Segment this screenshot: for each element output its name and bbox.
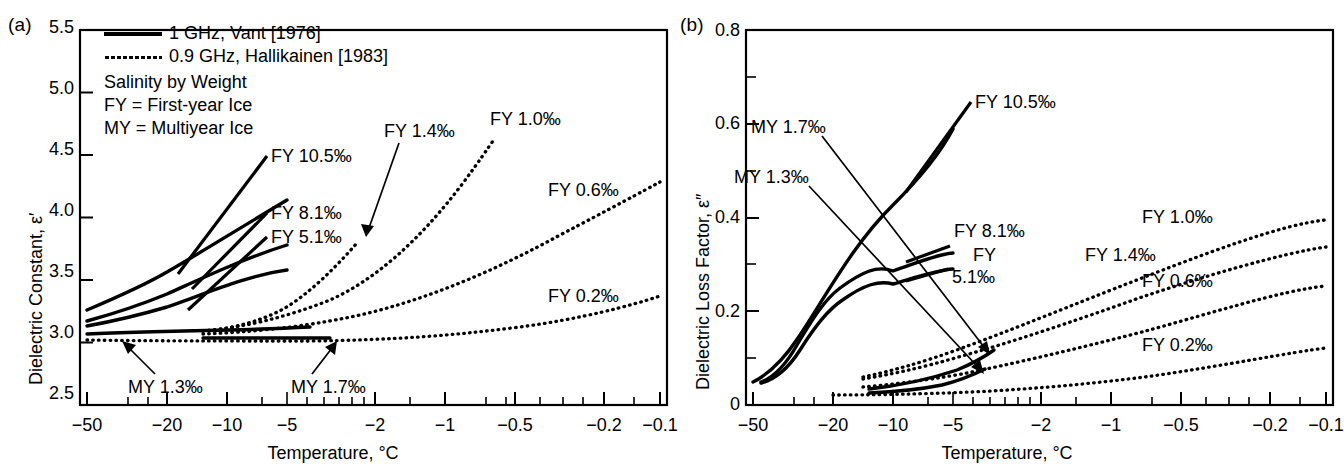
- panel-b-leader-my-1-7: [822, 136, 984, 347]
- panel-a-leader-fy-5-1: [188, 237, 267, 310]
- panel-a-curve-fy-8-1: [87, 245, 287, 321]
- panel-a-leader-my-1-7: [312, 348, 332, 374]
- panel-b-leader-my-1-3: [809, 186, 977, 366]
- panel-a-arrowhead-fy-1-4: [361, 224, 374, 237]
- panel-a-dielectric-constant: (a) Dielectric Constant, ε′ Temperature,…: [0, 0, 672, 473]
- panel-a-plot-svg: [0, 0, 672, 473]
- panel-a-arrowhead-my-1-7: [325, 341, 337, 355]
- panel-b-plot-svg: [672, 0, 1343, 473]
- panel-b-curve-fy-0-6: [863, 286, 1326, 387]
- panel-b-y-ticks: [746, 30, 759, 405]
- panel-a-curve-fy-0-2: [87, 296, 660, 341]
- panel-a-x-ticks: [87, 392, 660, 405]
- panel-b-curve-fy-0-2: [833, 348, 1326, 395]
- panel-a-leader-fy-1-4: [369, 143, 399, 228]
- panel-b-curve-my-1-7: [869, 350, 994, 389]
- panel-b-curve-fy-1-0: [863, 220, 1326, 377]
- panel-b-axes-frame: [746, 30, 1333, 405]
- panel-a-leader-my-1-3: [129, 348, 155, 374]
- panel-b-leader-fy-10-5: [906, 102, 971, 192]
- panel-a-curve-fy-0-6: [203, 182, 660, 334]
- panel-b-dielectric-loss-factor: (b) Dielectric Loss Factor, ε″ Temperatu…: [672, 0, 1343, 473]
- panel-b-leader-fy-5-1: [906, 269, 948, 281]
- panel-a-y-ticks: [80, 30, 93, 405]
